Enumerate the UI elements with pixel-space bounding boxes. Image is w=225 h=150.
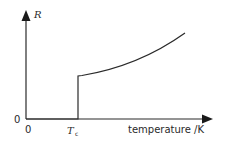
chart: R 0 0 T c temperature /K — [0, 0, 225, 150]
tc-subscript: c — [75, 130, 78, 137]
y-origin-label: 0 — [14, 114, 20, 125]
x-origin-label: 0 — [25, 124, 31, 135]
y-axis-label: R — [33, 9, 42, 20]
x-axis-arrow-icon — [202, 115, 213, 124]
tc-label: T — [67, 125, 75, 136]
y-axis-arrow-icon — [22, 10, 31, 21]
x-axis-label: temperature /K — [128, 124, 204, 135]
resistance-curve — [26, 33, 185, 119]
